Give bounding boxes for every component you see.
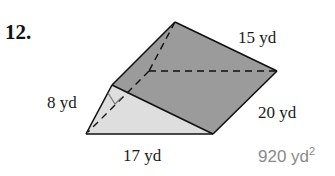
label-top-edge: 15 yd [238,29,276,46]
label-triangle-base: 17 yd [123,147,161,164]
label-triangle-leg: 8 yd [47,94,77,111]
label-right-edge: 20 yd [258,104,296,121]
answer-value: 920 yd [258,147,309,166]
answer-surface-area: 920 yd2 [258,146,315,165]
answer-exponent: 2 [309,145,315,157]
